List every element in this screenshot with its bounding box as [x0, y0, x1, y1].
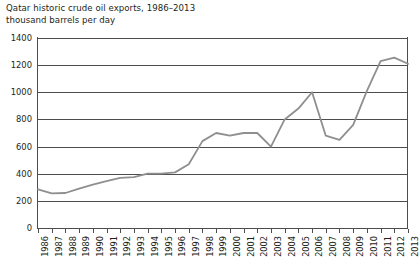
x-axis-tick-label: 1993: [137, 236, 145, 257]
x-axis-tick: [79, 229, 80, 233]
x-axis-tick: [216, 229, 217, 233]
x-axis-tick-label: 2005: [302, 236, 310, 257]
y-axis-tick-label: 400: [0, 170, 32, 178]
x-axis-tick-label: 2012: [397, 236, 405, 257]
x-axis-tick: [230, 229, 231, 233]
x-axis-tick-label: 2009: [356, 236, 364, 257]
x-axis-tick-label: 1994: [151, 236, 159, 257]
chart-header: Qatar historic crude oil exports, 1986–2…: [6, 3, 406, 26]
y-axis-tick-label: 200: [0, 197, 32, 205]
x-axis-tick-label: 2013: [411, 236, 419, 257]
x-axis-tick-label: 2004: [288, 236, 296, 257]
x-axis-tick: [353, 229, 354, 233]
x-axis-tick-label: 1995: [165, 236, 173, 257]
x-axis-tick-label: 1996: [178, 236, 186, 257]
y-axis-tick-label: 1200: [0, 61, 32, 69]
x-axis-tick: [408, 229, 409, 233]
grid-line: [38, 38, 408, 39]
x-axis-tick: [202, 229, 203, 233]
x-axis-tick-label: 1991: [110, 236, 118, 257]
x-axis-tick: [93, 229, 94, 233]
grid-line: [38, 147, 408, 148]
x-axis-tick-label: 1986: [41, 236, 49, 257]
grid-line: [38, 65, 408, 66]
x-axis-tick: [257, 229, 258, 233]
y-axis-tick-label: 0: [0, 224, 32, 232]
x-axis-tick: [161, 229, 162, 233]
x-axis-tick-label: 2001: [247, 236, 255, 257]
x-axis-tick-label: 1988: [69, 236, 77, 257]
x-axis-tick: [381, 229, 382, 233]
x-axis-tick-label: 2008: [343, 236, 351, 257]
grid-line: [38, 92, 408, 93]
x-axis-tick-label: 1999: [219, 236, 227, 257]
x-axis-tick: [394, 229, 395, 233]
x-axis-tick-label: 1992: [123, 236, 131, 257]
grid-line: [38, 201, 408, 202]
x-axis-tick: [65, 229, 66, 233]
y-axis-tick-label: 600: [0, 143, 32, 151]
x-axis-tick: [134, 229, 135, 233]
y-axis-tick-label: 1000: [0, 88, 32, 96]
x-axis-tick-label: 1990: [96, 236, 104, 257]
chart-title: Qatar historic crude oil exports, 1986–2…: [6, 3, 406, 15]
x-axis-tick: [107, 229, 108, 233]
x-axis-tick-label: 1989: [82, 236, 90, 257]
plot-area: [38, 38, 408, 228]
x-axis-tick: [326, 229, 327, 233]
x-axis-tick: [52, 229, 53, 233]
chart-subtitle: thousand barrels per day: [6, 15, 406, 27]
x-axis-tick: [339, 229, 340, 233]
x-axis-tick-label: 2007: [329, 236, 337, 257]
x-axis-tick-label: 2003: [274, 236, 282, 257]
x-axis-tick: [189, 229, 190, 233]
x-axis-tick-label: 1987: [55, 236, 63, 257]
x-axis-tick-label: 2011: [384, 236, 392, 257]
grid-line: [38, 174, 408, 175]
x-axis-tick: [38, 229, 39, 233]
x-axis-tick: [120, 229, 121, 233]
x-axis-tick: [175, 229, 176, 233]
x-axis-tick: [271, 229, 272, 233]
x-axis-tick-label: 1998: [206, 236, 214, 257]
x-axis-tick: [367, 229, 368, 233]
x-axis-tick: [244, 229, 245, 233]
y-axis-tick-label: 1400: [0, 34, 32, 42]
x-axis-tick: [312, 229, 313, 233]
x-axis-tick-label: 1997: [192, 236, 200, 257]
x-axis-tick: [285, 229, 286, 233]
x-axis-tick: [148, 229, 149, 233]
x-axis-tick-label: 2006: [315, 236, 323, 257]
x-axis-tick: [298, 229, 299, 233]
x-axis-tick-label: 2010: [370, 236, 378, 257]
grid-line: [38, 119, 408, 120]
x-axis-tick-label: 2002: [260, 236, 268, 257]
y-axis-tick-label: 800: [0, 115, 32, 123]
x-axis-tick-label: 2000: [233, 236, 241, 257]
